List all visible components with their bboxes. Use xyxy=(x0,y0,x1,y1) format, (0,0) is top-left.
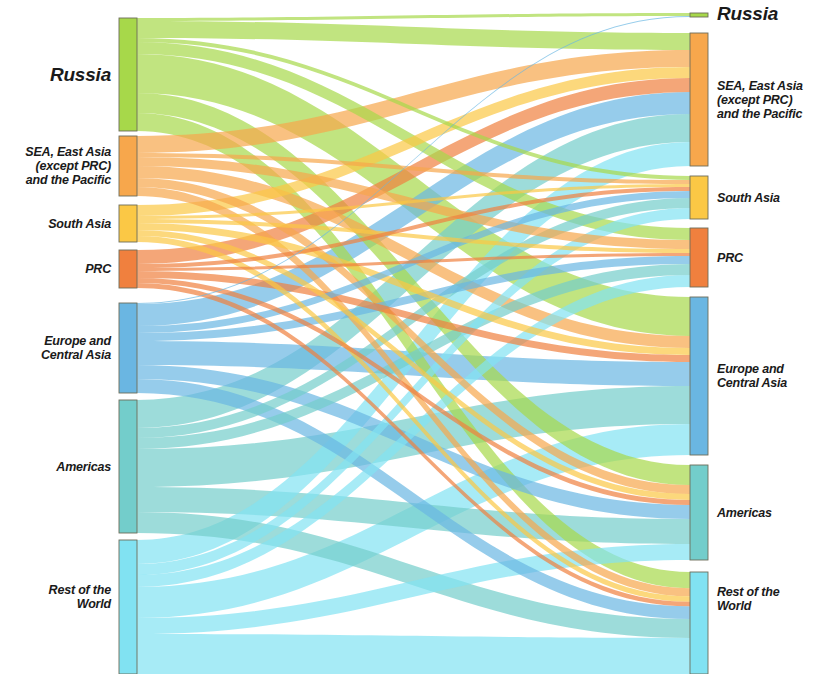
node-label-left-sea_east_asia_pacific: SEA, East Asia (except PRC) and the Paci… xyxy=(0,145,111,187)
sankey-node-left-russia[interactable] xyxy=(119,18,137,131)
sankey-links-layer xyxy=(137,13,690,674)
node-label-left-russia: Russia xyxy=(0,64,111,85)
node-label-right-prc: PRC xyxy=(717,251,816,265)
node-label-right-russia: Russia xyxy=(717,3,816,24)
sankey-node-left-rest_of_world[interactable] xyxy=(119,540,137,674)
sankey-node-left-americas[interactable] xyxy=(119,400,137,533)
sankey-node-left-south_asia[interactable] xyxy=(119,205,137,242)
node-label-left-americas: Americas xyxy=(0,460,111,474)
sankey-node-right-prc[interactable] xyxy=(690,228,708,287)
node-label-left-prc: PRC xyxy=(0,262,111,276)
sankey-node-right-americas[interactable] xyxy=(690,465,708,560)
sankey-node-right-russia[interactable] xyxy=(690,13,708,17)
sankey-node-left-europe_central_asia[interactable] xyxy=(119,303,137,393)
node-label-right-south_asia: South Asia xyxy=(717,191,816,205)
sankey-node-left-prc[interactable] xyxy=(119,250,137,288)
sankey-node-right-rest_of_world[interactable] xyxy=(690,572,708,674)
sankey-canvas xyxy=(0,0,816,674)
sankey-node-left-sea_east_asia_pacific[interactable] xyxy=(119,136,137,196)
sankey-node-right-south_asia[interactable] xyxy=(690,176,708,219)
node-label-right-sea_east_asia_pacific: SEA, East Asia (except PRC) and the Paci… xyxy=(717,79,816,121)
sankey-link xyxy=(137,13,690,21)
node-label-left-south_asia: South Asia xyxy=(0,217,111,231)
sankey-node-right-sea_east_asia_pacific[interactable] xyxy=(690,33,708,166)
node-label-right-rest_of_world: Rest of the World xyxy=(717,585,816,613)
sankey-link xyxy=(137,634,690,674)
node-label-right-europe_central_asia: Europe and Central Asia xyxy=(717,362,816,390)
sankey-diagram: RussiaSEA, East Asia (except PRC) and th… xyxy=(0,0,816,674)
node-label-right-americas: Americas xyxy=(717,506,816,520)
node-label-left-europe_central_asia: Europe and Central Asia xyxy=(0,334,111,362)
sankey-node-right-europe_central_asia[interactable] xyxy=(690,297,708,455)
node-label-left-rest_of_world: Rest of the World xyxy=(0,583,111,611)
